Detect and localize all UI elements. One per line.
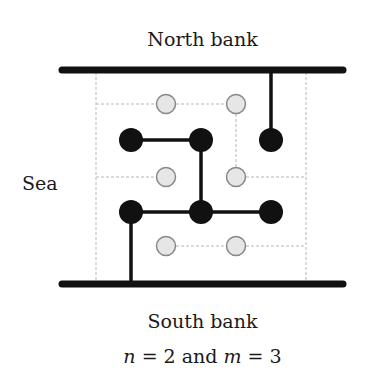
gray-node — [157, 95, 176, 114]
black-node — [189, 200, 213, 224]
gray-node — [227, 168, 246, 187]
black-node — [259, 200, 283, 224]
black-node — [119, 128, 143, 152]
bridge-game-diagram — [0, 0, 365, 381]
black-node — [119, 200, 143, 224]
black-node — [189, 128, 213, 152]
gray-node — [157, 168, 176, 187]
gray-node — [227, 237, 246, 256]
gray-node — [227, 95, 246, 114]
gray-node — [157, 237, 176, 256]
black-node — [259, 128, 283, 152]
